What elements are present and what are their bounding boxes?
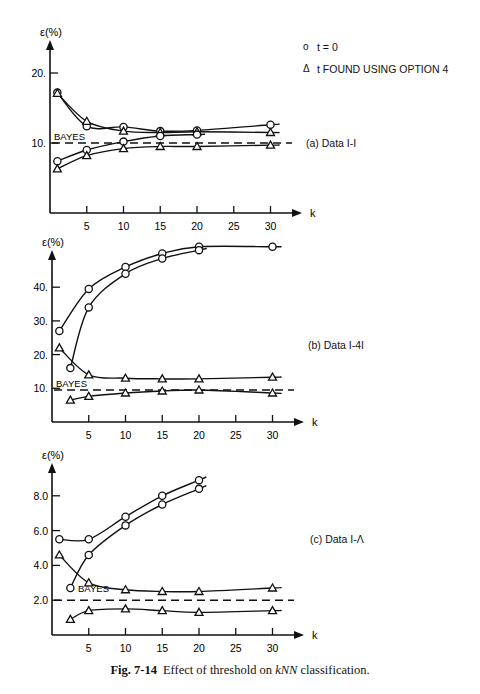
circle-marker-icon <box>56 536 63 543</box>
circle-marker-icon <box>85 304 92 311</box>
circle-marker-icon <box>67 584 74 591</box>
bayes-label: BAYES <box>56 378 87 389</box>
y-tick-label: 30. <box>33 315 48 327</box>
x-tick-label: 20 <box>193 429 205 441</box>
caption-text-end: classification. <box>297 663 369 677</box>
series-curve <box>70 390 281 400</box>
y-axis-arrow-icon <box>46 40 54 50</box>
x-tick-label: 5 <box>86 642 92 654</box>
triangle-marker-icon <box>53 165 61 172</box>
circle-marker-icon <box>269 243 276 250</box>
x-axis-arrow-icon <box>294 418 304 426</box>
circle-marker-icon <box>85 551 92 558</box>
chart-panel-1: ε(%)k5101520253010.20.30.40.BAYES <box>33 236 318 441</box>
triangle-marker-icon <box>55 551 63 558</box>
chart-panel-0: ε(%)k5101520253010.20.BAYES <box>31 26 316 232</box>
panel-label-b: (b) Data I-4I <box>308 339 364 351</box>
circle-marker-icon <box>157 132 164 139</box>
circle-marker-icon <box>159 492 166 499</box>
circle-marker-icon <box>159 255 166 262</box>
circle-marker-icon <box>122 513 129 520</box>
x-tick-label: 20 <box>193 642 205 654</box>
x-axis-arrow-icon <box>292 209 302 217</box>
caption-italic: kNN <box>275 663 297 677</box>
circle-marker-icon <box>122 522 129 529</box>
legend-label: t = 0 <box>317 36 338 58</box>
triangle-marker-icon <box>85 371 93 378</box>
caption-text: Effect of threshold on <box>163 663 275 677</box>
x-tick-label: 30 <box>267 429 279 441</box>
figure-caption: Fig. 7-14Effect of threshold on kNN clas… <box>0 663 480 678</box>
x-tick-label: 10 <box>120 429 132 441</box>
x-tick-label: 25 <box>230 642 242 654</box>
y-tick-label: 6.0 <box>33 525 48 537</box>
y-axis-label: ε(%) <box>42 236 64 248</box>
x-tick-label: 15 <box>156 642 168 654</box>
figure-canvas: ε(%)k5101520253010.20.BAYESε(%)k51015202… <box>0 0 480 694</box>
circle-marker-icon <box>195 477 202 484</box>
figure-number: Fig. 7-14 <box>110 663 157 677</box>
triangle-marker-icon <box>66 615 74 622</box>
x-tick-label: 25 <box>230 429 242 441</box>
legend-label: t FOUND USING OPTION 4 <box>317 58 448 80</box>
x-tick-label: 15 <box>156 429 168 441</box>
series-curve <box>59 348 281 379</box>
legend: o t = 0 Δ t FOUND USING OPTION 4 <box>303 36 448 80</box>
legend-item-triangle: Δ t FOUND USING OPTION 4 <box>303 58 448 80</box>
circle-marker-icon <box>159 501 166 508</box>
y-tick-label: 40. <box>33 281 48 293</box>
x-tick-label: 15 <box>154 220 166 232</box>
triangle-marker-icon <box>55 344 63 351</box>
series-curve <box>70 609 281 619</box>
panel-label-c: (c) Data I-Λ <box>310 533 364 545</box>
x-tick-label: 25 <box>228 220 240 232</box>
x-tick-label: 10 <box>118 220 130 232</box>
y-axis-label: ε(%) <box>40 26 62 38</box>
circle-marker-icon: o <box>303 36 317 58</box>
circle-marker-icon <box>56 327 63 334</box>
y-axis-arrow-icon <box>48 250 56 260</box>
circle-marker-icon <box>122 270 129 277</box>
circle-marker-icon <box>85 536 92 543</box>
legend-item-circle: o t = 0 <box>303 36 448 58</box>
triangle-marker-icon: Δ <box>303 58 317 80</box>
x-axis-label: k <box>310 207 316 219</box>
x-tick-label: 5 <box>86 429 92 441</box>
y-tick-label: 8.0 <box>33 490 48 502</box>
y-tick-label: 10. <box>31 137 46 149</box>
circle-marker-icon <box>67 364 74 371</box>
x-tick-label: 10 <box>120 642 132 654</box>
x-axis-label: k <box>312 629 318 641</box>
x-tick-label: 30 <box>267 642 279 654</box>
y-axis-arrow-icon <box>48 463 56 473</box>
y-tick-label: 4.0 <box>33 559 48 571</box>
circle-marker-icon <box>195 247 202 254</box>
y-tick-label: 20. <box>31 67 46 79</box>
x-axis-arrow-icon <box>294 631 304 639</box>
x-tick-label: 30 <box>265 220 277 232</box>
series-curve <box>59 477 206 541</box>
y-tick-label: 20. <box>33 349 48 361</box>
y-tick-label: 2.0 <box>33 594 48 606</box>
circle-marker-icon <box>193 131 200 138</box>
chart-panel-2: ε(%)k510152025302.04.06.08.0BAYES <box>33 449 318 654</box>
panel-label-a: (a) Data I-I <box>306 137 356 149</box>
x-tick-label: 20 <box>191 220 203 232</box>
x-axis-label: k <box>312 416 318 428</box>
y-axis-label: ε(%) <box>42 449 64 461</box>
triangle-marker-icon <box>83 117 91 124</box>
circle-marker-icon <box>85 285 92 292</box>
circle-marker-icon <box>195 485 202 492</box>
y-tick-label: 10. <box>33 382 48 394</box>
x-tick-label: 5 <box>84 220 90 232</box>
bayes-label: BAYES <box>54 131 85 142</box>
